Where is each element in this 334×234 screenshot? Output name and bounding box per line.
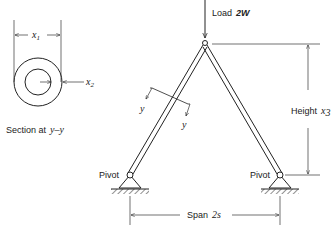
right-member <box>203 45 282 174</box>
right-pivot-support: Pivot <box>250 170 299 194</box>
load-label: Load 2W <box>212 2 251 19</box>
tube-cross-section: x1 x2 Section at y–y <box>6 20 94 136</box>
left-pivot-label: Pivot <box>99 170 120 180</box>
right-pivot-label: Pivot <box>250 170 271 180</box>
cut-label-a: y <box>139 103 145 114</box>
height-label: Height x3 <box>291 100 330 118</box>
left-pivot-support: Pivot <box>99 170 149 194</box>
apex-joint <box>203 41 208 46</box>
section-cut-marker: y y <box>139 88 190 130</box>
section-caption: Section at y–y <box>6 119 64 136</box>
x2-label: x2 <box>85 76 94 89</box>
outer-circle <box>14 58 62 106</box>
load-arrow: Load 2W <box>205 0 251 38</box>
span-label: Span 2s <box>187 204 221 221</box>
truss-diagram: x1 x2 Section at y–y Load 2W y y <box>0 0 334 234</box>
x1-label: x1 <box>31 29 40 42</box>
span-dimension: Span 2s <box>130 196 280 225</box>
cut-label-b: y <box>181 119 187 130</box>
